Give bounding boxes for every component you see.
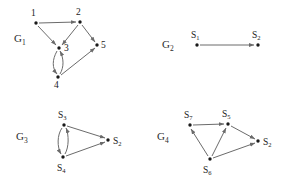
vertex-s4 (61, 155, 64, 158)
node-label-s5: S5 (222, 109, 231, 120)
node-label-s1: S1 (191, 30, 200, 41)
edge-s3-s2 (67, 126, 105, 138)
node-label-s2-g4: S2 (263, 137, 272, 148)
node-label-s3: S3 (58, 110, 67, 121)
panel-g3: G3 S3 S2 S4 (16, 110, 122, 174)
graph-figure: G1 1 2 3 4 5 G2 (0, 0, 284, 175)
edge-3-4-down (53, 51, 57, 74)
vertex-1 (34, 21, 37, 24)
node-label-4: 4 (54, 80, 59, 90)
edge-2-5 (82, 25, 95, 42)
edge-s6-s2 (213, 143, 255, 158)
panel-g2: G2 S1 S2 (162, 30, 261, 53)
panel-g1: G1 1 2 3 4 5 (14, 7, 106, 90)
edge-1-2 (39, 22, 76, 23)
edge-s6-s7 (191, 129, 208, 156)
vertex-s6 (208, 157, 211, 160)
node-label-s6: S6 (203, 165, 212, 175)
edge-1-3 (38, 26, 56, 45)
node-label-s7: S7 (184, 110, 193, 121)
vertex-s3 (62, 123, 65, 126)
node-label-2: 2 (76, 7, 81, 17)
graph-canvas: G1 1 2 3 4 5 G2 (0, 0, 284, 175)
vertex-5 (95, 43, 98, 46)
panel-label-g2: G2 (162, 38, 174, 53)
vertex-s2-g3 (106, 138, 109, 141)
panel-label-g3: G3 (16, 130, 28, 145)
node-label-3: 3 (64, 43, 69, 53)
vertex-s5 (226, 122, 229, 125)
vertex-3 (57, 46, 60, 49)
edge-s3-s4-down (58, 128, 62, 154)
vertex-s1 (195, 43, 198, 46)
vertex-s7 (188, 123, 191, 126)
panel-g4: G4 S7 S5 S2 S6 (157, 109, 272, 175)
vertex-s2-g4 (256, 139, 259, 142)
edge-s4-s3-up (65, 128, 68, 154)
node-label-s2-g3: S2 (113, 136, 122, 147)
edge-s7-s5 (193, 124, 224, 125)
vertex-2 (78, 20, 81, 23)
node-label-s2: S2 (252, 30, 261, 41)
edge-4-3-up (60, 51, 63, 74)
edge-s4-s2 (66, 142, 105, 156)
edge-s6-s5 (212, 128, 226, 156)
edge-2-3 (62, 25, 78, 45)
node-label-s4: S4 (57, 163, 66, 174)
vertex-s2 (256, 43, 259, 46)
edge-s5-s2 (231, 126, 255, 139)
panel-label-g1: G1 (14, 32, 26, 47)
node-label-5: 5 (101, 40, 106, 50)
node-label-1: 1 (31, 8, 36, 18)
vertex-4 (56, 75, 59, 78)
panel-label-g4: G4 (157, 130, 169, 145)
